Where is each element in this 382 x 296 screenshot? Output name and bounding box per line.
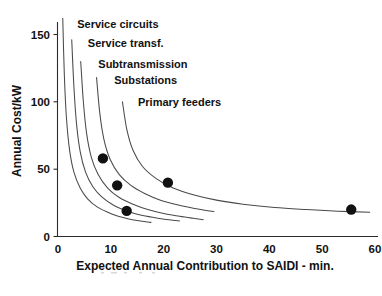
chart-series-group bbox=[63, 18, 370, 222]
data-point-marker bbox=[98, 153, 108, 163]
x-tick-label: 40 bbox=[263, 243, 276, 255]
y-tick-label: 50 bbox=[37, 163, 50, 175]
y-tick-label: 0 bbox=[44, 231, 50, 243]
data-point-marker bbox=[163, 177, 173, 187]
data-point-marker bbox=[346, 204, 356, 214]
x-tick-label: 10 bbox=[104, 243, 117, 255]
y-axis-tick-labels: 0 50 100 150 bbox=[31, 29, 50, 243]
y-axis-ticks bbox=[54, 35, 58, 237]
chart-axes bbox=[58, 22, 379, 237]
x-axis-tick-labels: 0 10 20 30 40 50 60 bbox=[55, 243, 382, 255]
x-tick-label: 50 bbox=[316, 243, 329, 255]
chart-plot-area: 0 50 100 150 0 10 20 30 40 50 60 Expecte… bbox=[0, 0, 382, 296]
chart-data-markers bbox=[98, 153, 357, 216]
y-tick-label: 150 bbox=[31, 29, 50, 41]
x-tick-label: 20 bbox=[157, 243, 170, 255]
x-tick-label: 60 bbox=[369, 243, 382, 255]
y-axis-title: Annual Cost/kW bbox=[10, 84, 24, 177]
x-axis-title: Expected Annual Contribution to SAIDI - … bbox=[76, 259, 334, 273]
series-label-service-circuits: Service circuits bbox=[77, 18, 158, 30]
x-tick-label: 30 bbox=[210, 243, 223, 255]
chart-series-labels: Service circuitsService transf.Subtransm… bbox=[77, 18, 221, 108]
series-curve bbox=[122, 102, 369, 212]
chart-figure: 0 50 100 150 0 10 20 30 40 50 60 Expecte… bbox=[0, 0, 382, 296]
series-label-subtransmission: Subtransmission bbox=[98, 58, 188, 70]
series-label-substations: Substations bbox=[114, 74, 177, 86]
series-label-service-transf: Service transf. bbox=[88, 37, 164, 49]
x-tick-label: 0 bbox=[55, 243, 61, 255]
series-label-primary-feeders: Primary feeders bbox=[138, 96, 221, 108]
data-point-marker bbox=[112, 180, 122, 190]
y-tick-label: 100 bbox=[31, 96, 50, 108]
data-point-marker bbox=[121, 206, 131, 216]
